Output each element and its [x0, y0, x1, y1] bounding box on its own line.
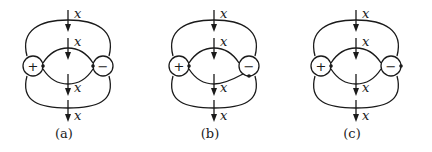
positive-sign: +: [174, 59, 185, 74]
caption-b: (b): [201, 126, 219, 141]
arrow-1: [353, 10, 359, 32]
caption-c: (c): [343, 126, 360, 141]
arrow-label-2: x: [220, 34, 228, 49]
arrow-4: [65, 100, 71, 122]
arrow-label-3: x: [74, 80, 82, 95]
positive-dot: [187, 64, 191, 68]
dipole-diagram-b: x x x x + − (b): [146, 0, 290, 152]
arrow-label-4: x: [362, 108, 370, 123]
arrow-4: [353, 100, 359, 122]
positive-dot: [41, 64, 45, 68]
arrow-2: [353, 38, 359, 60]
panel-b: x x x x + − (b): [146, 0, 290, 152]
arrow-label-4: x: [74, 108, 82, 123]
positive-sign: +: [316, 59, 327, 74]
arrow-2: [65, 38, 71, 60]
negative-dot: [91, 64, 95, 68]
arrow-1: [65, 10, 71, 32]
negative-sign: −: [386, 59, 397, 74]
arrow-label-2: x: [362, 34, 370, 49]
positive-dot: [329, 64, 333, 68]
arrow-label-2: x: [74, 34, 82, 49]
arrow-label-4: x: [220, 108, 228, 123]
arrow-label-1: x: [220, 6, 228, 21]
arrow-label-1: x: [74, 6, 82, 21]
positive-sign: +: [28, 59, 39, 74]
negative-dot: [399, 64, 403, 68]
caption-a: (a): [55, 126, 73, 141]
arrow-3: [211, 74, 217, 96]
negative-sign: −: [98, 59, 109, 74]
panel-a: x x x x + − (a): [0, 0, 144, 152]
negative-dot: [247, 74, 251, 78]
arrow-label-1: x: [362, 6, 370, 21]
dipole-diagram-a: x x x x + − (a): [0, 0, 144, 152]
arrow-label-3: x: [220, 80, 228, 95]
dipole-diagram-c: x x x x + − (c): [288, 0, 432, 152]
arrow-label-3: x: [362, 80, 370, 95]
arrow-3: [353, 74, 359, 96]
arrow-1: [211, 10, 217, 32]
arrow-3: [65, 74, 71, 96]
inner-bottom-arc: [189, 69, 243, 84]
arrow-4: [211, 100, 217, 122]
negative-sign: −: [244, 59, 255, 74]
panel-c: x x x x + − (c): [288, 0, 432, 152]
arrow-2: [211, 38, 217, 60]
